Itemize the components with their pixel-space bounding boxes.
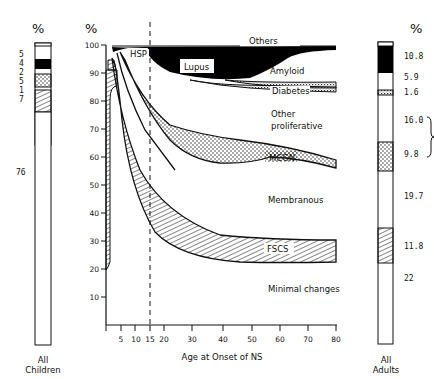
adults-diabetes-segment [378, 90, 393, 95]
hsp-label: HSP [130, 49, 147, 59]
svg-text:30: 30 [187, 335, 197, 344]
svg-text:50: 50 [247, 335, 257, 344]
children-lupus-segment [35, 59, 51, 69]
children-label: All [38, 355, 49, 365]
children-value: 7 [19, 95, 24, 104]
diabetes-label: Diabetes [272, 86, 310, 96]
adults-value: 22 [404, 274, 414, 283]
adults-value: 16.0 [404, 116, 423, 125]
children-value: 4 [19, 59, 24, 68]
children-value: 2 [19, 68, 24, 77]
others-label: Others [249, 36, 278, 46]
adults-value: 1.6 [404, 88, 419, 97]
y-axis-ticks: 100 90 80 70 60 50 40 30 20 10 [85, 41, 106, 302]
svg-text:15: 15 [145, 335, 155, 344]
svg-text:5: 5 [119, 335, 124, 344]
adults-value: 5.9 [404, 73, 419, 82]
children-value: 76 [16, 168, 26, 177]
adults-value: 11.8 [404, 242, 423, 251]
nephrotic-syndrome-chart: % 5 4 2 5 1 7 76 All Children % 10.8 5.9… [0, 0, 434, 379]
x-axis-title: Age at Onset of NS [182, 352, 263, 362]
all-adults-bar: % 10.8 5.9 1.6 16.0 9.8 19.7 11.8 22 All… [373, 21, 434, 375]
svg-text:20: 20 [89, 265, 99, 274]
svg-text:60: 60 [275, 335, 285, 344]
svg-text:50: 50 [89, 181, 99, 190]
mcgn-label: MCGN [269, 153, 295, 163]
svg-text:20: 20 [159, 335, 169, 344]
svg-text:80: 80 [89, 97, 99, 106]
bracket-icon [427, 117, 434, 157]
svg-text:80: 80 [331, 335, 341, 344]
x-axis-ticks: 5 10 15 20 30 40 50 60 70 80 [106, 325, 341, 344]
children-value: 5 [19, 77, 24, 86]
adults-label: Adults [373, 365, 400, 375]
adults-pct-label: % [410, 21, 422, 36]
membranous-label: Membranous [268, 195, 324, 205]
adults-label: All [381, 355, 392, 365]
svg-text:10: 10 [89, 293, 99, 302]
svg-text:100: 100 [85, 41, 100, 50]
svg-text:70: 70 [303, 335, 313, 344]
adults-lupus-segment [378, 46, 393, 73]
svg-text:60: 60 [89, 153, 99, 162]
children-mcgn-segment [35, 74, 51, 87]
svg-text:10: 10 [131, 335, 141, 344]
svg-text:40: 40 [89, 209, 99, 218]
adults-value: 9.8 [404, 150, 419, 159]
children-minimal-segment [35, 112, 51, 345]
other-proliferative-label: proliferative [271, 121, 323, 131]
children-pct-label: % [32, 21, 44, 36]
children-value: 5 [19, 50, 24, 59]
adults-value: 19.7 [404, 192, 423, 201]
minimal-changes-label: Minimal changes [268, 284, 340, 294]
children-label: Children [25, 365, 60, 375]
main-area-chart: % Others HSP Lupus Amyloid Diabetes Othe… [85, 21, 341, 362]
children-value: 1 [19, 86, 24, 95]
children-fsgs-segment [35, 90, 51, 112]
svg-text:70: 70 [89, 125, 99, 134]
all-children-bar: % 5 4 2 5 1 7 76 All Children [16, 21, 61, 375]
y-axis-pct-label: % [85, 21, 97, 36]
other-proliferative-label: Other [271, 109, 296, 119]
adults-value: 10.8 [404, 52, 423, 61]
lupus-label: Lupus [184, 62, 210, 72]
adults-mcgn-segment [378, 142, 393, 171]
svg-text:90: 90 [89, 69, 99, 78]
fsgs-label: FSCS [267, 244, 288, 254]
adults-fsgs-segment [378, 228, 393, 263]
amyloid-label: Amyloid [270, 66, 304, 76]
svg-text:30: 30 [89, 237, 99, 246]
svg-text:40: 40 [218, 335, 228, 344]
